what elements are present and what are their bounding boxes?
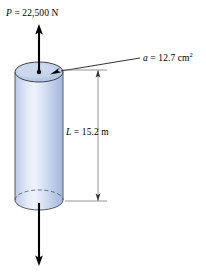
cylinder-top-face-highlight <box>18 64 56 78</box>
area-exponent: 2 <box>190 51 193 58</box>
length-value: 15.2 <box>82 127 99 137</box>
area-value: 12.7 <box>158 53 175 63</box>
length-unit: m <box>99 127 109 137</box>
load-label: P = 22,500 N <box>6 9 59 19</box>
length-label: L = 15.2 m <box>66 128 109 138</box>
load-equals: = <box>12 8 22 18</box>
bottom-force-arrow <box>35 203 43 266</box>
area-leader-line-segment <box>61 58 140 71</box>
area-unit: cm <box>175 53 189 63</box>
cylinder <box>15 62 63 210</box>
load-value: 22,500 <box>22 8 49 18</box>
cylinder-body <box>15 72 63 210</box>
load-unit: N <box>49 8 58 18</box>
top-force-anchor-dot <box>37 70 41 74</box>
area-equals: = <box>148 53 158 63</box>
length-equals: = <box>71 127 81 137</box>
area-label: a = 12.7 cm2 <box>143 54 193 64</box>
